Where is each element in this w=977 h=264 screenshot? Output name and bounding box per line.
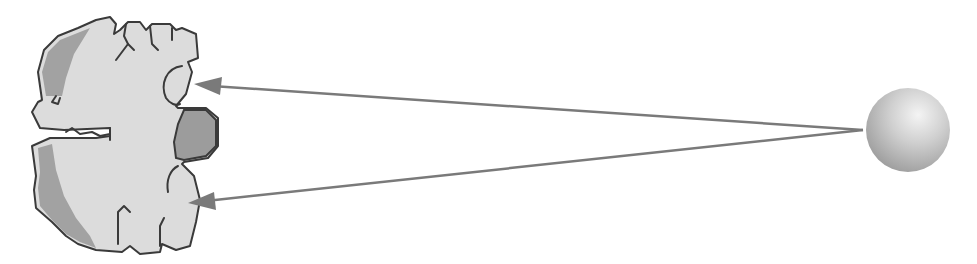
arrows (188, 77, 863, 210)
arrow-upper-head (194, 77, 222, 95)
diagram-canvas (0, 0, 977, 264)
sphere-icon (866, 88, 950, 172)
arrow-upper-line (212, 86, 863, 130)
shaded-contusion-right (174, 110, 216, 160)
brain-section (32, 17, 218, 254)
arrow-lower-line (206, 130, 863, 201)
